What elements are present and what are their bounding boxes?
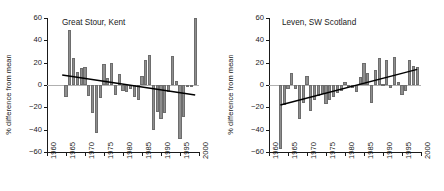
x-tick-mark <box>123 152 124 156</box>
y-tick-label: −20 <box>220 104 269 112</box>
y-tick-label: 40 <box>0 37 47 45</box>
y-tick-mark <box>44 18 47 19</box>
y-tick-mark <box>266 85 269 86</box>
trend-line-segment <box>62 75 195 95</box>
x-tick-label: 1985 <box>367 142 375 159</box>
x-tick-mark <box>85 152 86 156</box>
x-tick-label: 1970 <box>88 142 96 159</box>
x-tick-label: 2000 <box>424 142 432 159</box>
x-tick-label: 1980 <box>348 142 356 159</box>
x-tick-label: 1990 <box>386 142 394 159</box>
x-tick-mark <box>161 152 162 156</box>
panel-great-stour: % difference from mean Great Stour, Kent… <box>0 0 222 191</box>
x-tick-label: 1965 <box>69 142 77 159</box>
plot-area-right: 6040200−20−40−60196019651970197519801985… <box>269 18 421 152</box>
y-tick-mark <box>266 18 269 19</box>
y-tick-mark <box>44 40 47 41</box>
y-tick-mark <box>44 85 47 86</box>
x-tick-label: 1980 <box>126 142 134 159</box>
x-tick-label: 1990 <box>164 142 172 159</box>
x-tick-label: 1995 <box>183 142 191 159</box>
x-tick-label: 1960 <box>50 142 58 159</box>
x-tick-mark <box>402 152 403 156</box>
x-tick-mark <box>421 152 422 156</box>
y-tick-mark <box>44 130 47 131</box>
x-tick-label: 1995 <box>405 142 413 159</box>
y-tick-label: 60 <box>220 14 269 22</box>
y-tick-label: 0 <box>220 81 269 89</box>
x-tick-label: 2000 <box>202 142 210 159</box>
x-tick-mark <box>66 152 67 156</box>
y-tick-mark <box>44 63 47 64</box>
y-tick-label: 0 <box>0 81 47 89</box>
x-tick-mark <box>307 152 308 156</box>
x-tick-mark <box>326 152 327 156</box>
x-tick-mark <box>383 152 384 156</box>
x-tick-mark <box>47 152 48 156</box>
x-tick-mark <box>345 152 346 156</box>
x-tick-label: 1975 <box>107 142 115 159</box>
panel-leven: % difference from mean Leven, SW Scotlan… <box>222 0 444 191</box>
y-tick-label: −60 <box>0 148 47 156</box>
y-tick-mark <box>266 40 269 41</box>
y-tick-mark <box>266 63 269 64</box>
x-tick-label: 1985 <box>145 142 153 159</box>
y-axis-label-right: % difference from mean <box>223 34 237 154</box>
figure-two-panel-bar-charts: % difference from mean Great Stour, Kent… <box>0 0 444 191</box>
y-tick-label: 60 <box>0 14 47 22</box>
y-tick-label: −20 <box>0 104 47 112</box>
y-tick-label: −60 <box>220 148 269 156</box>
y-tick-label: −40 <box>0 126 47 134</box>
y-tick-mark <box>44 107 47 108</box>
x-tick-mark <box>199 152 200 156</box>
plot-area-left: 6040200−20−40−60196019651970197519801985… <box>47 18 199 152</box>
y-tick-mark <box>266 130 269 131</box>
y-tick-mark <box>266 107 269 108</box>
x-tick-mark <box>364 152 365 156</box>
x-tick-mark <box>142 152 143 156</box>
x-tick-mark <box>269 152 270 156</box>
trend-line-left <box>47 18 199 152</box>
x-tick-label: 1970 <box>310 142 318 159</box>
x-tick-label: 1965 <box>291 142 299 159</box>
trend-line-segment <box>280 69 417 105</box>
y-tick-label: 20 <box>0 59 47 67</box>
trend-line-right <box>269 18 421 152</box>
x-tick-label: 1975 <box>329 142 337 159</box>
y-axis-label-left: % difference from mean <box>1 34 15 154</box>
y-tick-label: −40 <box>220 126 269 134</box>
x-tick-mark <box>288 152 289 156</box>
x-tick-label: 1960 <box>272 142 280 159</box>
y-tick-label: 20 <box>220 59 269 67</box>
x-tick-mark <box>104 152 105 156</box>
x-tick-mark <box>180 152 181 156</box>
y-tick-label: 40 <box>220 37 269 45</box>
